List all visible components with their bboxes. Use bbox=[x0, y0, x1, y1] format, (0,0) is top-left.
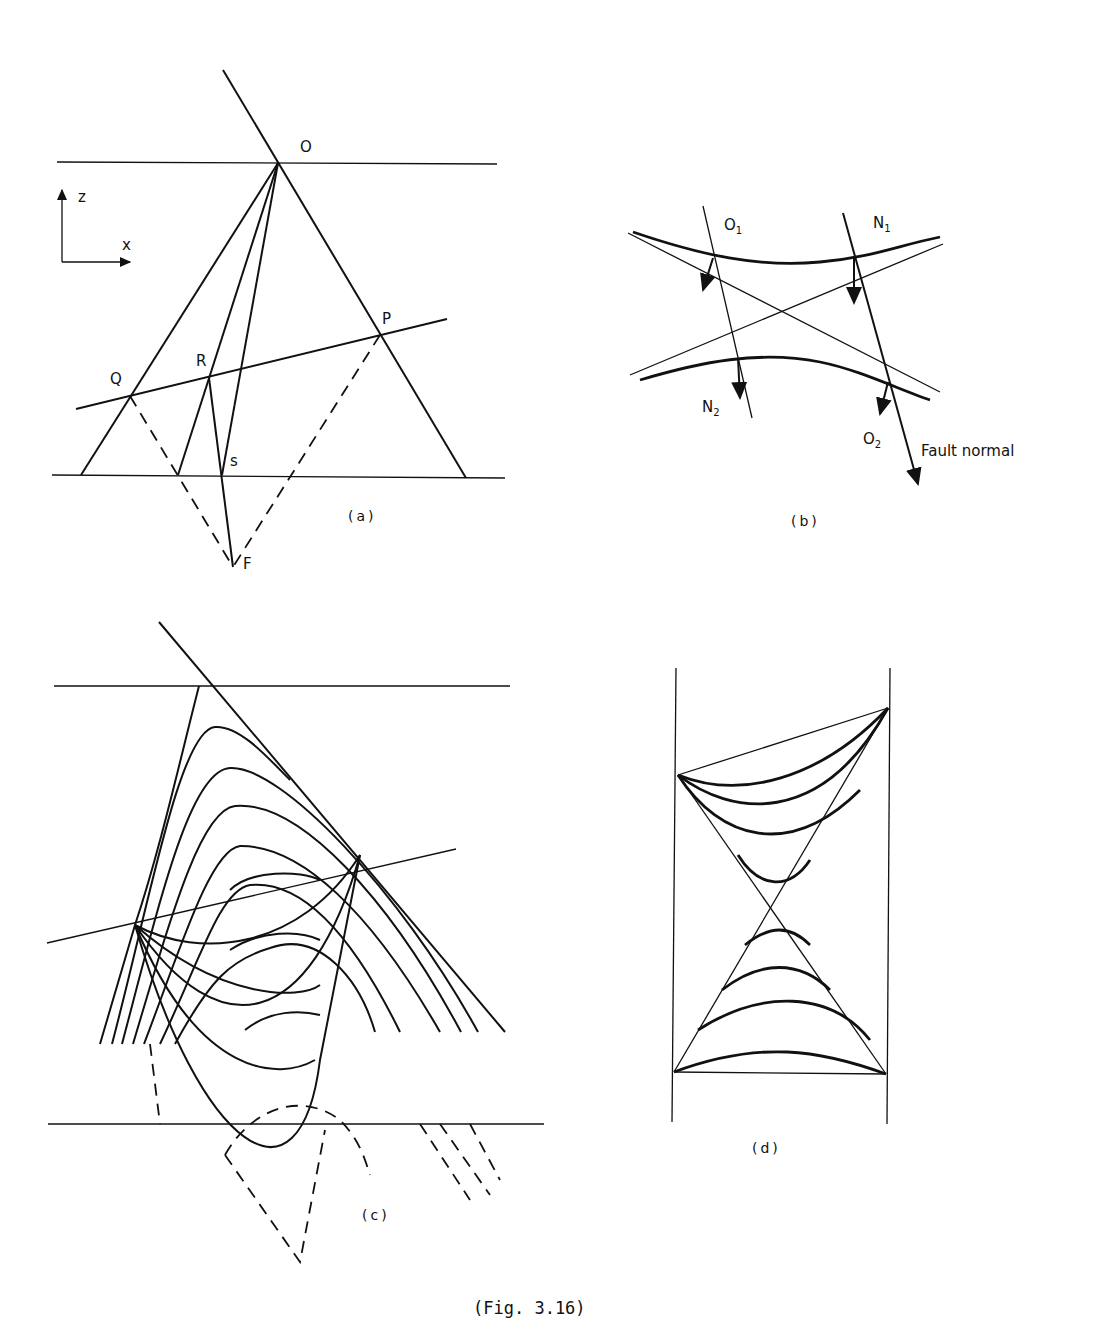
panel-a-diagram bbox=[52, 70, 505, 567]
n2-label: N2 bbox=[702, 398, 720, 418]
point-f-label: F bbox=[243, 555, 252, 573]
point-o-label: O bbox=[300, 138, 312, 156]
o2-label: O2 bbox=[863, 430, 881, 450]
point-s-label: s bbox=[230, 452, 238, 470]
panel-d-caption: (d) bbox=[752, 1140, 781, 1156]
point-p-label: P bbox=[382, 310, 391, 328]
panel-b-caption: (b) bbox=[791, 513, 820, 529]
o1-label: O1 bbox=[724, 216, 742, 236]
z-axis-label: z bbox=[78, 188, 86, 206]
point-q-label: Q bbox=[110, 370, 122, 388]
panel-d-diagram bbox=[672, 668, 890, 1124]
panel-c-diagram bbox=[47, 622, 544, 1262]
figure-canvas bbox=[0, 0, 1095, 1338]
panel-b-diagram bbox=[628, 206, 943, 484]
panel-a-caption: (a) bbox=[348, 508, 377, 524]
x-axis-label: x bbox=[122, 236, 131, 254]
point-r-label: R bbox=[196, 352, 206, 370]
n1-label: N1 bbox=[873, 214, 891, 234]
panel-c-caption: (c) bbox=[362, 1207, 390, 1223]
fault-normal-label: Fault normal bbox=[921, 442, 1014, 460]
figure-caption: (Fig. 3.16) bbox=[473, 1298, 586, 1318]
